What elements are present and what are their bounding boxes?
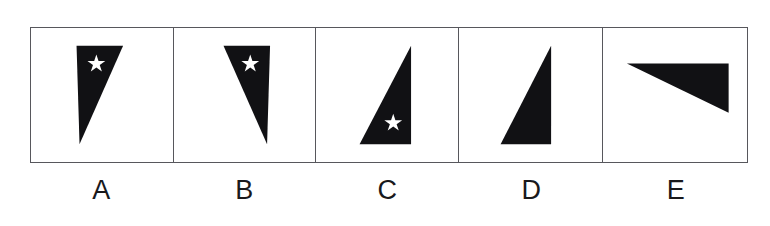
label-cell-a: A xyxy=(30,172,173,208)
panel-b[interactable] xyxy=(174,28,317,162)
panel-a[interactable] xyxy=(31,28,174,162)
label-cell-b: B xyxy=(173,172,316,208)
figure-root: A B C D E xyxy=(0,0,770,226)
triangle-c xyxy=(360,46,411,145)
shape-c-triangle-with-star xyxy=(316,28,458,162)
panel-label-a: A xyxy=(92,177,111,204)
panel-strip xyxy=(30,27,748,163)
triangle-b xyxy=(223,46,270,145)
panel-label-b: B xyxy=(235,177,254,204)
panel-label-c: C xyxy=(378,177,398,204)
panel-d[interactable] xyxy=(459,28,604,162)
label-cell-e: E xyxy=(604,172,748,208)
label-cell-c: C xyxy=(316,172,459,208)
shape-b-triangle-with-star xyxy=(174,28,316,162)
triangle-d xyxy=(500,46,551,145)
panel-label-e: E xyxy=(667,177,686,204)
shape-a-triangle-with-star xyxy=(31,28,173,162)
triangle-a xyxy=(77,46,124,145)
panel-e[interactable] xyxy=(603,28,747,162)
panel-c[interactable] xyxy=(316,28,459,162)
shape-d-triangle-plain xyxy=(459,28,603,162)
panel-label-row: A B C D E xyxy=(30,172,748,208)
panel-label-d: D xyxy=(522,177,542,204)
label-cell-d: D xyxy=(459,172,604,208)
triangle-e xyxy=(627,63,729,112)
shape-e-triangle-rotated xyxy=(603,28,747,162)
